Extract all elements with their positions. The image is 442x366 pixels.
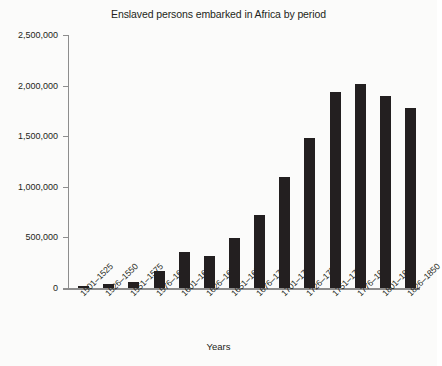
y-axis-tick-label: 500,000 xyxy=(0,232,58,242)
bar xyxy=(330,92,341,288)
y-axis-tick-label: 0 xyxy=(0,283,58,293)
bar xyxy=(380,96,391,288)
bar xyxy=(355,84,366,288)
y-axis-tick-label: 1,500,000 xyxy=(0,131,58,141)
x-axis-title: Years xyxy=(0,341,437,352)
chart-title: Enslaved persons embarked in Africa by p… xyxy=(0,8,437,20)
x-axis-tick-labels: 1501–15251526–15501551–15751576–16001601… xyxy=(68,291,420,346)
bars-container xyxy=(68,35,420,288)
y-axis-tick-label: 1,000,000 xyxy=(0,182,58,192)
y-axis-tick-label: 2,500,000 xyxy=(0,30,58,40)
y-axis-tick xyxy=(63,288,68,289)
y-axis-tick-label: 2,000,000 xyxy=(0,81,58,91)
